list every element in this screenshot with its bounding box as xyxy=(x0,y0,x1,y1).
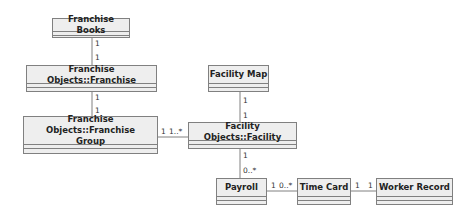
class-franchise-books[interactable]: Franchise Books xyxy=(52,18,130,38)
class-name: Franchise Books xyxy=(53,19,129,32)
operations-compartment xyxy=(189,145,296,148)
multiplicity-label: 0..* xyxy=(243,167,256,175)
class-facility[interactable]: Facility Objects::Facility xyxy=(188,122,297,149)
class-worker-record[interactable]: Worker Record xyxy=(376,178,453,205)
multiplicity-label: 0..* xyxy=(279,182,292,190)
class-name: Time Card xyxy=(298,179,350,197)
class-name: Franchise Objects::Franchise Group xyxy=(24,117,157,145)
class-name: Facility Map xyxy=(209,66,268,84)
class-facility-map[interactable]: Facility Map xyxy=(208,65,269,92)
operations-compartment xyxy=(53,36,129,39)
multiplicity-label: 1 xyxy=(368,182,373,190)
multiplicity-label: 1 xyxy=(243,152,248,160)
multiplicity-label: 1 xyxy=(243,112,248,120)
class-name: Payroll xyxy=(217,179,266,197)
class-name: Worker Record xyxy=(377,179,452,197)
operations-compartment xyxy=(217,201,266,204)
operations-compartment xyxy=(27,88,156,91)
multiplicity-label: 1 xyxy=(95,107,100,115)
class-franchise[interactable]: Franchise Objects::Franchise xyxy=(26,65,157,92)
multiplicity-label: 1 xyxy=(95,40,100,48)
class-time-card[interactable]: Time Card xyxy=(297,178,351,205)
operations-compartment xyxy=(209,88,268,91)
multiplicity-label: 1 xyxy=(161,128,166,136)
operations-compartment xyxy=(298,201,350,204)
class-name: Facility Objects::Facility xyxy=(189,123,296,141)
class-name: Franchise Objects::Franchise xyxy=(27,66,156,84)
multiplicity-label: 1..* xyxy=(169,128,182,136)
multiplicity-label: 1 xyxy=(243,97,248,105)
multiplicity-label: 1 xyxy=(95,94,100,102)
operations-compartment xyxy=(377,201,452,204)
class-payroll[interactable]: Payroll xyxy=(216,178,267,205)
multiplicity-label: 1 xyxy=(271,182,276,190)
multiplicity-label: 1 xyxy=(355,182,360,190)
operations-compartment xyxy=(24,149,157,152)
multiplicity-label: 1 xyxy=(95,54,100,62)
class-franchise-group[interactable]: Franchise Objects::Franchise Group xyxy=(23,116,158,154)
